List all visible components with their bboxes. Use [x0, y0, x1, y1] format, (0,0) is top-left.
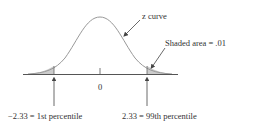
- center-tick-label: 0: [98, 82, 102, 92]
- right-percentile-label: 2.33 = 99th percentile: [122, 111, 197, 121]
- z-curve-pointer-arrow: [125, 20, 140, 35]
- normal-curve-diagram: z curve Shaded area = .01 0 −2.33 = 1st …: [0, 0, 256, 132]
- shaded-area-label: Shaded area = .01: [165, 38, 226, 48]
- z-curve-label: z curve: [142, 11, 167, 21]
- z-curve: [28, 17, 172, 74]
- shaded-area-pointer-arrow: [152, 48, 165, 67]
- left-percentile-label: −2.33 = 1st percentile: [8, 111, 82, 121]
